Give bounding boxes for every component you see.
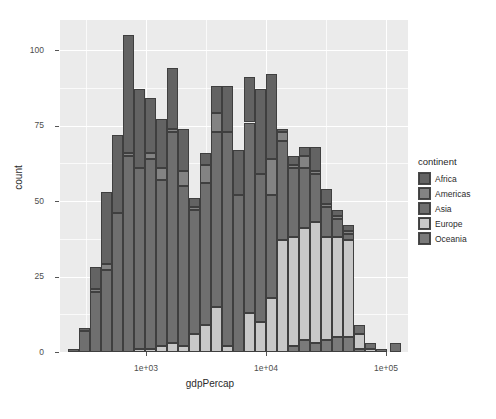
legend-items: AfricaAmericasAsiaEuropeOceania — [418, 171, 470, 246]
legend-swatch — [419, 218, 430, 229]
histogram-bar — [112, 135, 123, 352]
bar-segment-asia — [167, 132, 178, 343]
histogram-bar — [189, 198, 200, 352]
bar-segment-europe — [134, 349, 145, 352]
histogram-bar — [145, 98, 156, 352]
legend-swatch — [419, 203, 430, 214]
bar-segment-americas — [189, 207, 200, 210]
y-tick-label: 25 — [4, 272, 44, 281]
gridline-y-major — [60, 50, 408, 51]
bar-segment-asia — [222, 132, 233, 346]
bar-segment-europe — [156, 346, 167, 352]
bar-segment-europe — [332, 237, 343, 337]
bar-segment-africa — [277, 129, 288, 132]
histogram-bar — [288, 156, 299, 352]
histogram-bar — [365, 343, 376, 352]
y-tick-mark — [55, 50, 59, 51]
bar-segment-americas — [145, 153, 156, 159]
bar-segment-africa — [79, 328, 90, 331]
gridline-x-minor — [86, 20, 87, 352]
histogram-bar — [266, 74, 277, 352]
x-tick-label: 1e+04 — [254, 364, 278, 373]
bar-segment-oceania — [310, 343, 321, 352]
bar-segment-africa — [123, 35, 134, 153]
bar-segment-asia — [156, 180, 167, 346]
y-tick-mark — [55, 201, 59, 202]
bar-segment-asia — [244, 123, 255, 313]
bar-segment-oceania — [299, 340, 310, 352]
histogram-bar — [178, 129, 189, 352]
bar-segment-africa — [288, 156, 299, 165]
bar-segment-africa — [90, 267, 101, 288]
bar-segment-americas — [200, 165, 211, 183]
gridline-x-major — [386, 20, 387, 352]
bar-segment-oceania — [321, 340, 332, 352]
histogram-bar — [299, 147, 310, 352]
histogram-bar — [354, 325, 365, 352]
y-tick-label: 50 — [4, 197, 44, 206]
gridline-y-minor — [60, 88, 408, 89]
y-tick-label: 100 — [4, 46, 44, 55]
bar-segment-africa — [200, 153, 211, 165]
legend-label: Americas — [435, 189, 470, 199]
bar-segment-africa — [145, 98, 156, 152]
histogram-bar — [167, 68, 178, 352]
legend-item-europe[interactable]: Europe — [418, 216, 470, 231]
legend-item-oceania[interactable]: Oceania — [418, 231, 470, 246]
bar-segment-oceania — [354, 349, 365, 352]
bar-segment-americas — [156, 168, 167, 180]
bar-segment-americas — [321, 204, 332, 207]
bar-segment-asia — [123, 156, 134, 352]
bar-segment-americas — [90, 289, 101, 292]
legend-key-icon — [418, 232, 431, 245]
y-tick-label: 0 — [4, 348, 44, 357]
histogram-bar — [90, 267, 101, 352]
bar-segment-oceania — [288, 346, 299, 352]
legend-key-icon — [418, 172, 431, 185]
bar-segment-africa — [134, 89, 145, 168]
bar-segment-asia — [390, 343, 401, 352]
bar-segment-asia — [255, 174, 266, 322]
bar-segment-africa — [233, 150, 244, 195]
bar-segment-europe — [277, 240, 288, 352]
bar-segment-asia — [145, 159, 156, 349]
bar-segment-asia — [112, 213, 123, 352]
y-tick-mark — [55, 277, 59, 278]
legend-title: continent — [418, 156, 470, 167]
bar-segment-asia — [310, 174, 321, 222]
y-tick-label: 75 — [4, 121, 44, 130]
bar-segment-europe — [299, 228, 310, 340]
bar-segment-africa — [321, 189, 332, 204]
bar-segment-europe — [167, 343, 178, 352]
x-tick-label: 1e+03 — [134, 364, 158, 373]
bar-segment-asia — [365, 343, 376, 349]
x-tick-mark — [146, 352, 147, 356]
bar-segment-europe — [310, 222, 321, 343]
bar-segment-americas — [123, 153, 134, 156]
legend-key-icon — [418, 202, 431, 215]
y-tick-mark — [55, 352, 59, 353]
bar-segment-africa — [255, 89, 266, 174]
y-tick-mark — [55, 126, 59, 127]
bar-segment-americas — [101, 264, 112, 270]
histogram-bar — [200, 153, 211, 352]
bar-segment-americas — [167, 129, 178, 132]
bar-segment-africa — [178, 129, 189, 171]
bar-segment-europe — [244, 313, 255, 352]
histogram-bar — [134, 89, 145, 352]
bar-segment-africa — [68, 349, 79, 352]
bar-segment-africa — [266, 74, 277, 159]
legend-key-icon — [418, 187, 431, 200]
legend-item-americas[interactable]: Americas — [418, 186, 470, 201]
legend-item-asia[interactable]: Asia — [418, 201, 470, 216]
legend-item-africa[interactable]: Africa — [418, 171, 470, 186]
bar-segment-asia — [200, 183, 211, 325]
bar-segment-africa — [222, 86, 233, 131]
bar-segment-americas — [299, 156, 310, 168]
histogram-bar — [211, 86, 222, 352]
histogram-bar — [79, 328, 90, 352]
bar-segment-europe — [255, 322, 266, 352]
histogram-bar — [277, 129, 288, 352]
legend: continent AfricaAmericasAsiaEuropeOceani… — [418, 156, 470, 246]
bar-segment-africa — [112, 135, 123, 214]
